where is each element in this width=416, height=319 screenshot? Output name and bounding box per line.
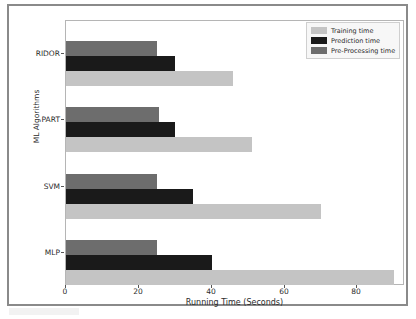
bar-part-preprocessing	[66, 107, 159, 122]
x-tick-label-80: 80	[351, 287, 361, 296]
legend-swatch-prediction-icon	[311, 37, 327, 44]
y-tick-mark-mlp	[61, 252, 64, 253]
x-tick-label-40: 40	[206, 287, 216, 296]
plot-area	[65, 20, 404, 285]
bar-mlp-prediction	[66, 255, 212, 270]
figure-frame: RIDOR PART SVM MLP ML Algorithms	[7, 4, 408, 306]
bar-ridor-preprocessing	[66, 41, 157, 56]
bar-mlp-preprocessing	[66, 240, 157, 255]
bar-ridor-prediction	[66, 56, 175, 71]
y-tick-mark-part	[61, 119, 64, 120]
y-tick-label-svm: SVM	[44, 182, 60, 191]
bars-layer	[66, 21, 403, 284]
x-tick-label-60: 60	[279, 287, 289, 296]
bar-ridor-training	[66, 71, 233, 86]
x-tick-label-20: 20	[133, 287, 143, 296]
bar-svm-training	[66, 204, 321, 219]
legend-item-training: Training time	[311, 26, 395, 35]
legend-swatch-preprocessing-icon	[311, 47, 327, 54]
y-tick-label-mlp: MLP	[45, 248, 60, 257]
bar-mlp-training	[66, 270, 394, 285]
x-axis-title: Running Time (Seconds)	[65, 298, 404, 307]
x-tick-label-0: 0	[63, 287, 68, 296]
y-axis-title: ML Algorithms	[32, 37, 41, 197]
bar-part-prediction	[66, 122, 175, 137]
legend-label-preprocessing: Pre-Processing time	[331, 47, 395, 55]
page-artifact	[9, 308, 79, 315]
legend-item-preprocessing: Pre-Processing time	[311, 46, 395, 55]
y-tick-mark-ridor	[61, 53, 64, 54]
bar-part-training	[66, 137, 252, 152]
y-tick-label-part: PART	[42, 115, 60, 124]
legend-swatch-training-icon	[311, 27, 327, 34]
bar-svm-prediction	[66, 189, 193, 204]
legend-item-prediction: Prediction time	[311, 36, 395, 45]
y-tick-mark-svm	[61, 186, 64, 187]
legend-label-training: Training time	[331, 27, 373, 35]
bar-svm-preprocessing	[66, 174, 157, 189]
chart-legend: Training time Prediction time Pre-Proces…	[306, 22, 400, 59]
legend-label-prediction: Prediction time	[331, 37, 380, 45]
